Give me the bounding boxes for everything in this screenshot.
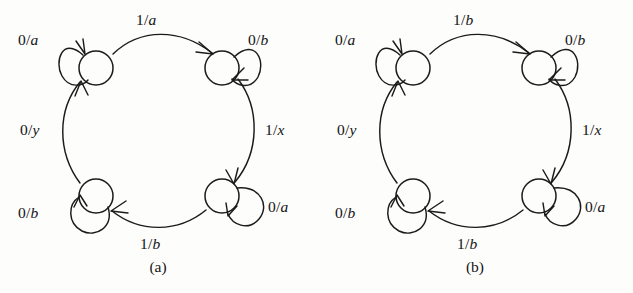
label-self-loop-bottom-left: 0/b <box>18 205 38 221</box>
label-self-loop-top-right: 0/b <box>248 32 268 48</box>
arrowhead-self-loop-top-right <box>549 68 565 80</box>
arrowhead-left <box>75 81 88 96</box>
arrowhead-self-loop-top-right <box>232 68 248 80</box>
state-node-top-left[interactable] <box>396 51 430 85</box>
self-loop-bottom-right[interactable] <box>545 188 581 226</box>
transition-edge-top[interactable] <box>113 34 212 54</box>
label-self-loop-top-left: 0/a <box>18 32 38 48</box>
transition-edge-left[interactable] <box>380 82 397 183</box>
arrowhead-left <box>392 81 405 96</box>
arrowhead-self-loop-top-left <box>76 39 85 54</box>
panel-caption-a: (a) <box>0 258 316 276</box>
label-transition-bottom: 1/b <box>457 236 477 252</box>
transition-edge-left[interactable] <box>63 82 80 183</box>
label-self-loop-top-right: 0/b <box>565 32 585 48</box>
label-transition-left: 0/y <box>337 122 357 138</box>
label-self-loop-bottom-right: 0/a <box>268 199 288 215</box>
arrowhead-self-loop-top-left <box>393 39 402 54</box>
label-transition-top: 1/b <box>453 12 473 28</box>
arrowhead-bottom <box>111 201 128 213</box>
label-transition-right: 1/x <box>265 122 285 138</box>
transition-edge-top[interactable] <box>430 34 529 54</box>
label-transition-left: 0/y <box>20 122 40 138</box>
self-loop-bottom-right[interactable] <box>228 188 264 226</box>
label-self-loop-bottom-left: 0/b <box>335 205 355 221</box>
label-transition-bottom: 1/b <box>140 236 160 252</box>
panel-caption-b: (b) <box>317 258 633 276</box>
transition-edge-right[interactable] <box>552 79 571 182</box>
arrowhead-bottom <box>428 201 445 213</box>
state-node-top-left[interactable] <box>79 51 113 85</box>
transition-edge-right[interactable] <box>235 79 254 182</box>
label-self-loop-top-left: 0/a <box>335 32 355 48</box>
diagram-panel-a: 0/a 0/b 1/a 0/y 1/x 0/b 0/a 1/b (a) <box>0 0 316 293</box>
label-transition-right: 1/x <box>582 122 602 138</box>
label-self-loop-bottom-right: 0/a <box>585 199 605 215</box>
label-transition-top: 1/a <box>136 12 156 28</box>
figure-root: 0/a 0/b 1/a 0/y 1/x 0/b 0/a 1/b (a) <box>0 0 633 293</box>
diagram-panel-b: 0/a 0/b 1/b 0/y 1/x 0/b 0/a 1/b (b) <box>317 0 633 293</box>
